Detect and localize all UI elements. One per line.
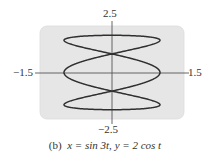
parametric-figure: 2.5 −2.5 −1.5 1.5 (b) x = sin 3t, y = 2 …	[0, 0, 210, 157]
caption-equation-y: y = 2 cos t	[115, 139, 162, 151]
caption-label: (b)	[49, 139, 62, 151]
x-max-label: 1.5	[188, 67, 202, 78]
figure-caption: (b) x = sin 3t, y = 2 cos t	[0, 139, 210, 151]
y-min-label: −2.5	[98, 124, 118, 135]
x-min-label: −1.5	[13, 67, 33, 78]
y-max-label: 2.5	[103, 8, 117, 19]
caption-equation-x: x = sin 3t,	[67, 139, 112, 151]
